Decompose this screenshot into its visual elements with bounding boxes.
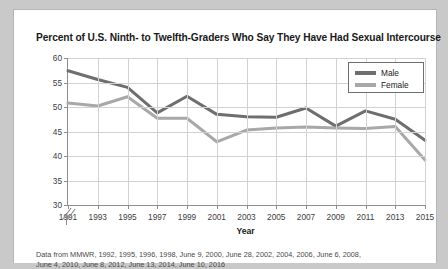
x-tick-label: 2007 xyxy=(297,212,315,222)
legend-label-male: Male xyxy=(381,68,399,78)
x-tick-label: 1999 xyxy=(178,212,196,222)
y-tick-mark xyxy=(64,132,68,133)
x-tick-mark xyxy=(276,205,277,209)
x-tick-label: 1993 xyxy=(89,212,107,222)
legend-label-female: Female xyxy=(381,80,409,90)
x-tick-label: 2009 xyxy=(327,212,345,222)
y-tick-mark xyxy=(64,107,68,108)
y-tick-mark xyxy=(64,83,68,84)
x-tick-mark xyxy=(336,205,337,209)
y-tick-mark xyxy=(64,156,68,157)
gridline-vertical xyxy=(247,58,248,205)
x-tick-label: 2003 xyxy=(237,212,255,222)
axis-break-icon xyxy=(60,206,76,222)
y-tick-label: 35 xyxy=(53,176,62,186)
x-tick-mark xyxy=(425,205,426,209)
x-tick-mark xyxy=(98,205,99,209)
x-tick-label: 2005 xyxy=(267,212,285,222)
gridline-vertical xyxy=(128,58,129,205)
legend-swatch-male xyxy=(355,71,376,75)
y-tick-label: 45 xyxy=(53,127,62,137)
x-tick-label: 2013 xyxy=(386,212,404,222)
x-tick-label: 1995 xyxy=(118,212,136,222)
gridline-vertical xyxy=(217,58,218,205)
x-tick-mark xyxy=(395,205,396,209)
source-note: Data from MMWR, 1992, 1995, 1996, 1998, … xyxy=(36,250,436,269)
y-tick-mark xyxy=(64,181,68,182)
x-tick-label: 1997 xyxy=(148,212,166,222)
x-tick-mark xyxy=(187,205,188,209)
legend-swatch-female xyxy=(355,83,376,87)
gridline-vertical xyxy=(336,58,337,205)
y-tick-label: 40 xyxy=(53,151,62,161)
gridline-vertical xyxy=(276,58,277,205)
legend-item-female: Female xyxy=(355,80,409,90)
gridline-vertical xyxy=(157,58,158,205)
x-tick-label: 2015 xyxy=(416,212,434,222)
x-tick-mark xyxy=(306,205,307,209)
y-tick-label: 60 xyxy=(53,53,62,63)
chart-card: Percent of U.S. Ninth- to Twelfth-Grader… xyxy=(13,9,437,263)
gridline-vertical xyxy=(187,58,188,205)
gridline-vertical xyxy=(425,58,426,205)
gridline-vertical xyxy=(98,58,99,205)
x-tick-mark xyxy=(157,205,158,209)
x-tick-mark xyxy=(247,205,248,209)
x-axis-label: Year xyxy=(67,226,424,236)
x-tick-label: 2001 xyxy=(208,212,226,222)
x-tick-label: 2011 xyxy=(357,212,375,222)
gridline-vertical xyxy=(306,58,307,205)
x-tick-mark xyxy=(128,205,129,209)
y-tick-mark xyxy=(64,58,68,59)
source-line-1: Data from MMWR, 1992, 1995, 1996, 1998, … xyxy=(36,250,436,260)
x-tick-mark xyxy=(217,205,218,209)
x-tick-mark xyxy=(366,205,367,209)
legend: Male Female xyxy=(348,62,424,93)
y-tick-label: 50 xyxy=(53,102,62,112)
source-line-2: June 4, 2010, June 8, 2012, June 13, 201… xyxy=(36,260,436,269)
legend-item-male: Male xyxy=(355,68,399,78)
page-title: Percent of U.S. Ninth- to Twelfth-Grader… xyxy=(36,32,441,43)
y-tick-label: 55 xyxy=(53,78,62,88)
